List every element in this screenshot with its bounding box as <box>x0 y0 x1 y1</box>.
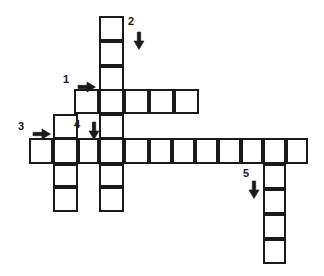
clue-number-2: 2 <box>128 16 134 27</box>
clue-number-5: 5 <box>243 168 249 179</box>
crossword-puzzle: 12345 <box>0 0 324 276</box>
clue-markers: 12345 <box>0 0 324 276</box>
clue-number-4: 4 <box>74 119 80 130</box>
clue-number-3: 3 <box>18 121 24 132</box>
clue-number-1: 1 <box>63 74 69 85</box>
